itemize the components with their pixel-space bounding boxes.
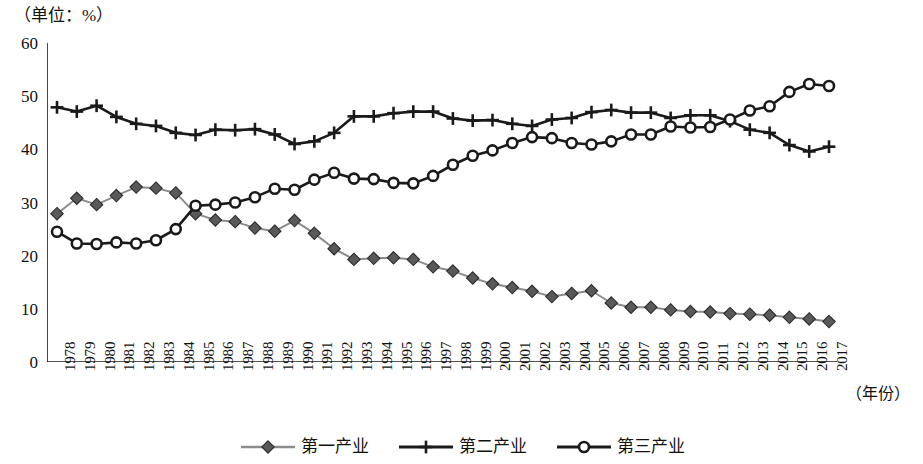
data-point-diamond <box>427 261 439 273</box>
data-point-diamond <box>486 278 498 290</box>
data-point-diamond <box>150 182 162 194</box>
data-point-circle <box>666 121 676 131</box>
data-point-circle <box>389 178 399 188</box>
data-point-circle <box>111 237 121 247</box>
data-point-circle <box>290 185 300 195</box>
data-point-circle <box>369 174 379 184</box>
data-point-circle <box>547 133 557 143</box>
data-point-circle <box>646 129 656 139</box>
data-point-circle <box>151 235 161 245</box>
data-point-diamond <box>288 214 300 226</box>
data-point-circle <box>72 238 82 248</box>
data-point-circle <box>92 239 102 249</box>
data-point-diamond <box>348 253 360 265</box>
chart-legend: 第一产业第二产业第三产业 <box>0 433 923 461</box>
data-point-circle <box>606 136 616 146</box>
legend-marker <box>579 442 589 452</box>
data-point-circle <box>824 81 834 91</box>
data-point-diamond <box>368 252 380 264</box>
plot-area <box>47 43 837 362</box>
data-point-diamond <box>565 287 577 299</box>
data-point-circle <box>171 224 181 234</box>
legend-item-2[interactable]: 第二产业 <box>397 437 527 457</box>
data-point-diamond <box>130 181 142 193</box>
data-point-diamond <box>684 305 696 317</box>
data-point-diamond <box>261 441 273 453</box>
y-tick-label: 10 <box>4 301 38 318</box>
data-point-diamond <box>209 214 221 226</box>
data-point-circle <box>210 200 220 210</box>
data-point-circle <box>579 442 589 452</box>
data-point-diamond <box>803 313 815 325</box>
data-point-diamond <box>110 189 122 201</box>
data-point-circle <box>428 171 438 181</box>
legend-item-3[interactable]: 第三产业 <box>555 437 685 457</box>
data-point-circle <box>191 201 201 211</box>
chart-svg <box>47 43 837 362</box>
y-tick-label: 30 <box>4 195 38 212</box>
chart-root: （单位：%） 0102030405060 1978197919801981198… <box>0 0 923 464</box>
data-point-circle <box>52 227 62 237</box>
data-point-circle <box>408 178 418 188</box>
data-point-circle <box>131 238 141 248</box>
data-point-circle <box>784 87 794 97</box>
data-point-diamond <box>387 252 399 264</box>
legend-diamond-icon <box>239 437 297 457</box>
data-point-circle <box>725 115 735 125</box>
data-point-diamond <box>645 301 657 313</box>
x-axis-title: （年份） <box>846 385 910 403</box>
data-point-diamond <box>546 290 558 302</box>
legend-label: 第三产业 <box>617 437 685 457</box>
legend-marker <box>261 441 273 453</box>
data-point-circle <box>685 123 695 133</box>
data-point-diamond <box>724 307 736 319</box>
y-tick-label: 20 <box>4 248 38 265</box>
data-point-circle <box>309 175 319 185</box>
legend-plus-icon <box>397 437 455 457</box>
series-2 <box>51 99 836 158</box>
data-point-circle <box>250 192 260 202</box>
y-tick-label: 60 <box>4 35 38 52</box>
data-point-circle <box>448 160 458 170</box>
data-point-circle <box>586 140 596 150</box>
data-point-diamond <box>783 311 795 323</box>
data-point-diamond <box>744 308 756 320</box>
data-point-circle <box>765 101 775 111</box>
legend-label: 第一产业 <box>301 437 369 457</box>
data-point-circle <box>270 184 280 194</box>
series-1 <box>51 181 835 328</box>
data-point-diamond <box>823 315 835 327</box>
data-point-circle <box>567 138 577 148</box>
data-point-diamond <box>704 306 716 318</box>
data-point-diamond <box>506 281 518 293</box>
data-point-circle <box>468 151 478 161</box>
y-tick-label: 50 <box>4 88 38 105</box>
data-point-diamond <box>526 285 538 297</box>
data-point-circle <box>626 129 636 139</box>
legend-marker <box>419 441 432 454</box>
legend-label: 第二产业 <box>459 437 527 457</box>
unit-caption: （单位：%） <box>14 6 113 26</box>
data-point-circle <box>745 106 755 116</box>
data-point-diamond <box>605 297 617 309</box>
legend-item-1[interactable]: 第一产业 <box>239 437 369 457</box>
data-point-diamond <box>269 225 281 237</box>
data-point-circle <box>230 198 240 208</box>
series-line <box>57 84 829 244</box>
data-point-diamond <box>585 285 597 297</box>
data-point-diamond <box>229 215 241 227</box>
series-line <box>57 187 829 322</box>
data-point-circle <box>527 132 537 142</box>
data-point-circle <box>329 168 339 178</box>
data-point-circle <box>507 138 517 148</box>
data-point-diamond <box>90 198 102 210</box>
data-point-circle <box>804 79 814 89</box>
series-3 <box>52 79 834 249</box>
data-point-diamond <box>447 265 459 277</box>
data-point-diamond <box>407 253 419 265</box>
data-point-circle <box>705 122 715 132</box>
data-point-diamond <box>625 301 637 313</box>
data-point-circle <box>349 174 359 184</box>
y-tick-label: 40 <box>4 141 38 158</box>
legend-circle-icon <box>555 437 613 457</box>
